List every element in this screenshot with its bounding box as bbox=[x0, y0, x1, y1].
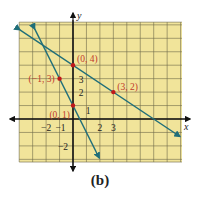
data-point bbox=[57, 76, 61, 80]
tick-label: 2 bbox=[79, 88, 84, 98]
tick-label: −1 bbox=[55, 123, 65, 133]
data-point bbox=[111, 90, 115, 94]
tick-label: 2 bbox=[98, 123, 103, 133]
point-label: (−1, 3) bbox=[29, 74, 55, 85]
data-point bbox=[71, 103, 75, 107]
point-label: (0, 4) bbox=[77, 54, 98, 65]
point-label: (0, 1) bbox=[49, 110, 70, 121]
tick-label: −2 bbox=[41, 123, 51, 133]
y-axis-label: y bbox=[76, 10, 82, 21]
x-axis-label: x bbox=[183, 121, 189, 132]
grid bbox=[19, 22, 182, 162]
tick-label: −2 bbox=[58, 142, 68, 152]
tick-label: 3 bbox=[111, 123, 116, 133]
tick-label: 1 bbox=[86, 106, 91, 116]
data-point bbox=[71, 63, 75, 67]
tick-label: 3 bbox=[79, 75, 84, 85]
point-label: (3, 2) bbox=[117, 82, 138, 93]
figure-caption: (b) bbox=[0, 172, 200, 189]
